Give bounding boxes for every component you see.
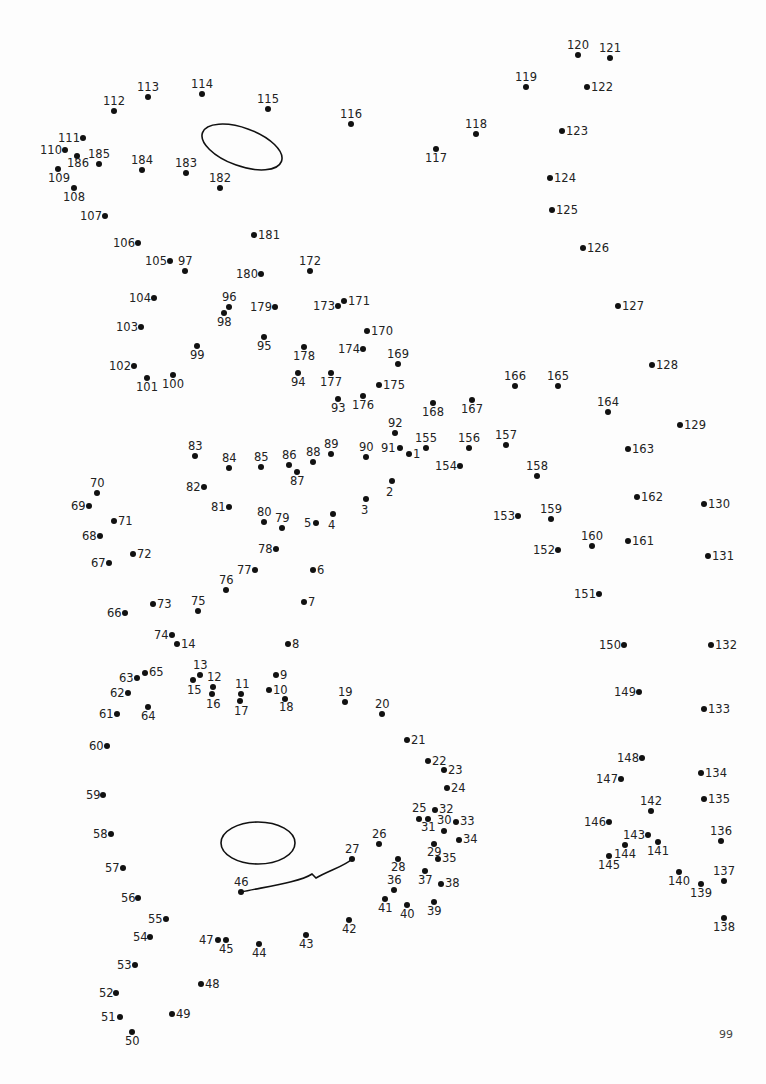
dot-88	[310, 459, 316, 465]
dot-label: 174	[338, 344, 360, 356]
dot-label: 167	[461, 404, 483, 416]
dot-128	[649, 362, 655, 368]
dot-154	[457, 463, 463, 469]
dot-label: 96	[222, 292, 237, 304]
dot-67	[106, 560, 112, 566]
dot-label: 151	[574, 589, 596, 601]
dot-label: 125	[556, 205, 578, 217]
dot-92	[392, 430, 398, 436]
dot-label: 179	[250, 302, 272, 314]
dot-label: 146	[584, 817, 606, 829]
dot-label: 35	[442, 853, 457, 865]
dot-55	[163, 916, 169, 922]
dot-71	[111, 518, 117, 524]
dot-label: 149	[614, 687, 636, 699]
dot-label: 140	[668, 876, 690, 888]
dot-label: 121	[599, 43, 621, 55]
dot-label: 61	[99, 709, 114, 721]
dot-84	[226, 465, 232, 471]
dot-61	[114, 711, 120, 717]
dot-104	[151, 295, 157, 301]
dot-label: 85	[254, 452, 269, 464]
dot-label: 26	[372, 829, 387, 841]
dot-label: 1	[413, 449, 420, 461]
dot-116	[348, 121, 354, 127]
dot-label: 182	[209, 173, 231, 185]
dot-label: 184	[131, 155, 153, 167]
dot-119	[523, 84, 529, 90]
dot-121	[607, 55, 613, 61]
dot-label: 34	[463, 834, 478, 846]
dot-label: 99	[190, 350, 205, 362]
dot-label: 132	[715, 640, 737, 652]
dot-131	[705, 553, 711, 559]
dot-132	[708, 642, 714, 648]
dot-label: 111	[58, 133, 80, 145]
dot-label: 22	[432, 756, 447, 768]
dot-label: 117	[425, 153, 447, 165]
dot-label: 120	[567, 40, 589, 52]
dot-label: 90	[359, 442, 374, 454]
dot-124	[547, 175, 553, 181]
dot-91	[397, 445, 403, 451]
dot-label: 18	[279, 702, 294, 714]
dot-label: 74	[154, 630, 169, 642]
dot-label: 170	[371, 326, 393, 338]
dot-label: 103	[116, 322, 138, 334]
dot-81	[226, 504, 232, 510]
dot-134	[698, 770, 704, 776]
dot-label: 171	[348, 296, 370, 308]
dot-142	[648, 808, 654, 814]
dot-59	[100, 792, 106, 798]
dot-label: 142	[640, 796, 662, 808]
dot-52	[113, 990, 119, 996]
dot-label: 15	[187, 685, 202, 697]
dot-label: 7	[308, 597, 315, 609]
dot-label: 104	[129, 293, 151, 305]
dot-label: 12	[207, 672, 222, 684]
dot-label: 87	[290, 476, 305, 488]
dot-173	[335, 303, 341, 309]
dot-label: 115	[257, 94, 279, 106]
dot-2	[389, 478, 395, 484]
dot-22	[425, 758, 431, 764]
dot-127	[615, 303, 621, 309]
dot-23	[441, 767, 447, 773]
dot-115	[265, 106, 271, 112]
dot-11	[238, 691, 244, 697]
dot-27	[349, 856, 355, 862]
dot-label: 82	[186, 482, 201, 494]
dot-label: 83	[188, 441, 203, 453]
dot-105	[167, 258, 173, 264]
dot-label: 106	[113, 238, 135, 250]
dot-175	[376, 382, 382, 388]
dot-label: 55	[148, 914, 163, 926]
dot-163	[625, 446, 631, 452]
dot-label: 127	[622, 301, 644, 313]
dot-label: 6	[317, 565, 324, 577]
dot-label: 131	[712, 551, 734, 563]
dot-114	[199, 91, 205, 97]
dot-label: 2	[386, 487, 393, 499]
dot-label: 47	[199, 935, 214, 947]
dot-label: 101	[136, 382, 158, 394]
dot-label: 176	[352, 400, 374, 412]
dot-126	[580, 245, 586, 251]
dot-label: 60	[89, 741, 104, 753]
dot-166	[512, 383, 518, 389]
dot-135	[701, 796, 707, 802]
dot-85	[258, 464, 264, 470]
dot-13	[197, 672, 203, 678]
dot-label: 20	[375, 699, 390, 711]
dot-110	[62, 147, 68, 153]
dot-label: 147	[596, 774, 618, 786]
dot-label: 136	[710, 826, 732, 838]
dot-label: 77	[237, 565, 252, 577]
dot-label: 57	[105, 863, 120, 875]
dot-103	[138, 324, 144, 330]
dot-73	[150, 601, 156, 607]
dot-label: 89	[324, 439, 339, 451]
dot-48	[198, 981, 204, 987]
dot-133	[701, 706, 707, 712]
dot-label: 33	[460, 816, 475, 828]
